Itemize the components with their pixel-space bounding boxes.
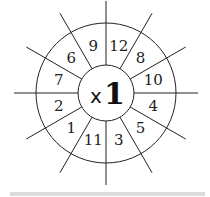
segment-number: 3 xyxy=(114,131,124,149)
center-multiply-sign: x xyxy=(90,84,102,108)
segment-number: 4 xyxy=(149,97,159,115)
segment-number: 6 xyxy=(67,49,77,67)
segment-number: 9 xyxy=(89,37,99,55)
segment-number: 2 xyxy=(54,97,64,115)
segment-number: 1 xyxy=(67,119,77,137)
bottom-bar xyxy=(10,192,205,196)
multiplication-wheel: 912810453111276 x 1 xyxy=(0,0,210,197)
segment-number: 11 xyxy=(84,131,103,149)
segment-number: 12 xyxy=(109,37,128,55)
segment-number: 5 xyxy=(136,119,146,137)
segment-number: 10 xyxy=(144,71,163,89)
center-multiplier: 1 xyxy=(104,76,125,111)
segment-number: 7 xyxy=(54,71,64,89)
segment-number: 8 xyxy=(136,49,146,67)
